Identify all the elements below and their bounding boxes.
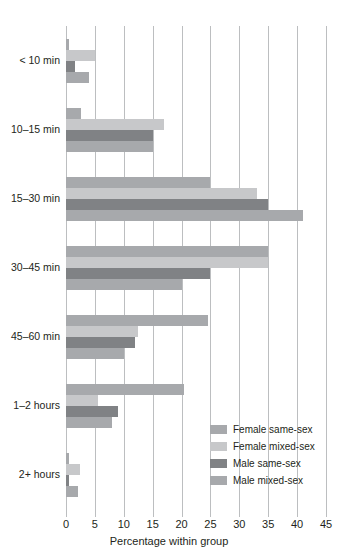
x-axis-tick-label: 5	[80, 518, 110, 530]
y-axis-label: < 10 min	[0, 55, 60, 66]
y-axis-label: 45–60 min	[0, 331, 60, 342]
bar	[66, 130, 153, 141]
x-axis-tick-label: 0	[51, 518, 81, 530]
legend-label: Male mixed-sex	[233, 475, 303, 486]
legend-label: Female mixed-sex	[233, 441, 315, 452]
bar	[66, 279, 182, 290]
bar	[66, 246, 268, 257]
legend-label: Female same-sex	[233, 424, 312, 435]
legend-item: Female mixed-sex	[210, 439, 334, 454]
bar	[66, 464, 80, 475]
x-axis-tick	[124, 510, 125, 517]
y-axis-label: 30–45 min	[0, 262, 60, 273]
y-axis-label: 15–30 min	[0, 193, 60, 204]
x-axis-tick-label: 30	[224, 518, 254, 530]
x-axis-title: Percentage within group	[0, 535, 338, 547]
x-axis-tick	[182, 510, 183, 517]
bar-group	[66, 39, 326, 83]
bar	[66, 72, 89, 83]
bar	[66, 257, 268, 268]
bar	[66, 337, 135, 348]
bar-group	[66, 177, 326, 221]
bar	[66, 108, 81, 119]
bar	[66, 50, 95, 61]
legend-item: Female same-sex	[210, 422, 334, 437]
x-axis: 051015202530354045	[66, 510, 326, 558]
bar-group	[66, 108, 326, 152]
bar-group	[66, 246, 326, 290]
bar-chart: < 10 min10–15 min15–30 min30–45 min45–60…	[0, 0, 338, 558]
bar-group	[66, 315, 326, 359]
bar	[66, 177, 210, 188]
x-axis-tick	[66, 510, 67, 517]
x-axis-tick-label: 40	[282, 518, 312, 530]
bar	[66, 210, 303, 221]
x-axis-tick	[239, 510, 240, 517]
bar	[66, 453, 69, 464]
bar	[66, 199, 268, 210]
x-axis-tick	[153, 510, 154, 517]
bar	[66, 486, 78, 497]
y-axis-label: 2+ hours	[0, 469, 60, 480]
bar	[66, 384, 184, 395]
bar	[66, 39, 69, 50]
bar	[66, 141, 153, 152]
bar	[66, 475, 69, 486]
legend-item: Male same-sex	[210, 456, 334, 471]
x-axis-tick-label: 25	[195, 518, 225, 530]
bar	[66, 268, 210, 279]
x-axis-tick-label: 10	[109, 518, 139, 530]
y-axis-category-labels: < 10 min10–15 min15–30 min30–45 min45–60…	[0, 26, 60, 510]
legend-swatch	[210, 425, 227, 434]
legend-swatch	[210, 476, 227, 485]
legend-item: Male mixed-sex	[210, 473, 334, 488]
y-axis-label: 10–15 min	[0, 124, 60, 135]
bar	[66, 406, 118, 417]
y-axis-label: 1–2 hours	[0, 400, 60, 411]
bar	[66, 119, 164, 130]
bar	[66, 188, 257, 199]
x-axis-tick	[326, 510, 327, 517]
x-axis-tick	[210, 510, 211, 517]
x-axis-tick-label: 45	[311, 518, 338, 530]
legend-label: Male same-sex	[233, 458, 301, 469]
x-axis-tick-label: 20	[167, 518, 197, 530]
x-axis-tick	[95, 510, 96, 517]
legend-swatch	[210, 442, 227, 451]
bar	[66, 348, 124, 359]
chart-legend: Female same-sexFemale mixed-sexMale same…	[210, 422, 334, 490]
bar	[66, 395, 98, 406]
x-axis-tick-label: 35	[253, 518, 283, 530]
bar	[66, 326, 138, 337]
bar	[66, 61, 75, 72]
x-axis-tick	[297, 510, 298, 517]
x-axis-tick	[268, 510, 269, 517]
legend-swatch	[210, 459, 227, 468]
x-axis-tick-label: 15	[138, 518, 168, 530]
bar	[66, 315, 208, 326]
bar	[66, 417, 112, 428]
